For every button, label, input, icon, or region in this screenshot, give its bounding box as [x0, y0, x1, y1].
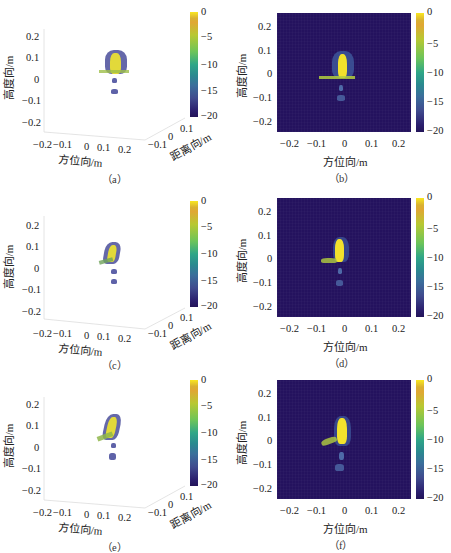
colorbar-tick: −20 [427, 125, 443, 136]
x-tick: 0 [342, 505, 347, 516]
scatterer [111, 269, 117, 274]
y-tick: −0.2 [253, 116, 272, 127]
azimuth-tick: −0.2 [33, 507, 52, 518]
colorbar-tick: 0 [201, 6, 206, 17]
y-tick: 0.2 [258, 206, 271, 217]
colorbar-tick: −5 [201, 400, 212, 411]
range-tick: 0.1 [180, 312, 193, 323]
range-tick: −0.1 [148, 507, 167, 518]
azimuth-tick: −0.1 [53, 139, 72, 150]
x-axis-label: 方位向/m [323, 153, 368, 169]
colorbar-tick: −10 [201, 427, 217, 438]
height-tick: −0.2 [22, 306, 41, 317]
colorbar-tick: −15 [427, 281, 443, 292]
x-tick: 0.2 [392, 505, 405, 516]
heatmap-area [277, 198, 411, 317]
range-tick: 0.1 [180, 123, 193, 134]
panel-caption: （e） [102, 539, 127, 553]
x-tick: −0.2 [280, 505, 299, 516]
scatterer [111, 279, 117, 284]
range-tick: 0 [168, 131, 173, 142]
x-tick: −0.1 [307, 323, 326, 334]
colorbar-tick: −10 [427, 434, 443, 445]
colorbar-tick: 0 [427, 191, 432, 202]
height-tick: 0 [34, 442, 39, 453]
colorbar-tick: −5 [201, 221, 212, 232]
colorbar-tick: −10 [201, 248, 217, 259]
x-tick: 0.2 [392, 323, 405, 334]
range-tick: −0.1 [148, 328, 167, 339]
colorbar-tick: −20 [427, 492, 443, 503]
colorbar [190, 12, 198, 117]
panel-d-2d: 0.2 0.1 0 −0.1 −0.2 高度向/m −0.2 −0.1 0 0.… [225, 185, 450, 369]
colorbar-tick: 0 [427, 373, 432, 384]
azimuth-tick: 0.1 [97, 510, 110, 521]
y-axis-label: 高度向/m [233, 421, 249, 466]
azimuth-tick: 0 [84, 509, 89, 520]
y-tick: 0.1 [258, 45, 271, 56]
height-tick: −0.2 [22, 485, 41, 496]
panel-a-3d: 0.2 0.1 0 −0.1 −0.2 高度向/m −0.2 −0.1 0 0.… [0, 0, 225, 184]
panel-f-2d: 0.2 0.1 0 −0.1 −0.2 高度向/m −0.2 −0.1 0 0.… [225, 368, 450, 552]
scatterer [111, 443, 116, 448]
colorbar-tick: −5 [427, 223, 438, 234]
y-tick: −0.1 [253, 277, 272, 288]
height-tick: −0.1 [22, 284, 41, 295]
panel-caption: （f） [329, 537, 353, 552]
y-tick: 0 [267, 435, 272, 446]
colorbar-tick: 0 [427, 6, 432, 17]
heatmap-area [277, 13, 411, 132]
target-base [321, 258, 337, 263]
panel-caption: （a） [102, 171, 127, 186]
height-axis-label: 高度向/m [0, 245, 16, 290]
colorbar-tick: −15 [201, 275, 217, 286]
height-tick: 0.2 [26, 31, 39, 42]
colorbar-tick: −15 [201, 85, 217, 96]
range-tick: 0.1 [180, 491, 193, 502]
y-axis-label: 高度向/m [233, 54, 249, 99]
colorbar-tick: 0 [201, 195, 206, 206]
azimuth-tick: 0.1 [97, 142, 110, 153]
x-tick: −0.1 [307, 138, 326, 149]
x-tick: 0 [342, 138, 347, 149]
colorbar-tick: −15 [427, 463, 443, 474]
height-tick: 0.1 [26, 420, 39, 431]
colorbar-tick: −20 [201, 300, 217, 311]
azimuth-tick: −0.2 [33, 328, 52, 339]
x-tick: −0.1 [307, 505, 326, 516]
colorbar-tick: −5 [427, 405, 438, 416]
height-tick: 0.1 [26, 52, 39, 63]
scatterer [112, 78, 117, 83]
x-tick: −0.2 [280, 138, 299, 149]
colorbar [190, 201, 198, 307]
range-tick: −0.1 [148, 139, 167, 150]
height-tick: 0.1 [26, 241, 39, 252]
panel-caption: （b） [329, 170, 354, 185]
scatterer [339, 85, 343, 91]
x-tick: 0.1 [365, 138, 378, 149]
colorbar [416, 198, 424, 317]
colorbar-tick: −5 [427, 38, 438, 49]
y-tick: −0.2 [253, 483, 272, 494]
scatterer [336, 280, 343, 286]
colorbar-tick: −10 [201, 59, 217, 70]
panel-b-2d: 0.2 0.1 0 −0.1 −0.2 高度向/m −0.2 −0.1 0 0.… [225, 0, 450, 184]
colorbar [416, 13, 424, 132]
target-base [320, 435, 337, 446]
colorbar-tick: −5 [201, 31, 212, 42]
azimuth-tick: 0.2 [118, 512, 131, 523]
y-tick: 0.1 [258, 412, 271, 423]
height-tick: −0.2 [22, 117, 41, 128]
x-tick: 0.2 [392, 138, 405, 149]
y-axis-label: 高度向/m [233, 239, 249, 284]
height-tick: 0 [34, 74, 39, 85]
target-base [319, 76, 355, 79]
colorbar [416, 380, 424, 499]
height-tick: 0.2 [26, 220, 39, 231]
x-tick: 0.1 [365, 323, 378, 334]
height-tick: 0 [34, 263, 39, 274]
y-tick: 0 [267, 253, 272, 264]
target-core [338, 54, 347, 78]
azimuth-tick: 0.2 [118, 333, 131, 344]
colorbar-tick: −20 [201, 110, 217, 121]
